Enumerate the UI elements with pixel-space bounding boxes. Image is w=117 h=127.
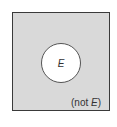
complement-label: (not E): [71, 97, 101, 108]
event-label: E: [58, 58, 65, 69]
event-circle: E: [41, 43, 81, 83]
